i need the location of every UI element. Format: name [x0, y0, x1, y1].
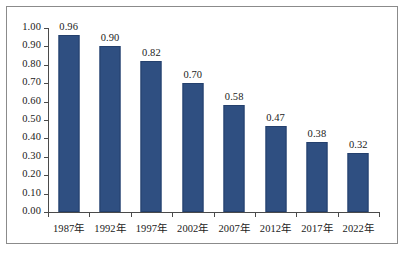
bar-group: 0.32	[338, 28, 379, 212]
bar-value-label: 0.96	[59, 21, 78, 32]
x-axis-category-label: 2022年	[338, 220, 379, 235]
bar-group: 0.70	[172, 28, 213, 212]
y-axis-tick-label: 0.80	[22, 58, 41, 69]
x-axis-category-label: 2012年	[255, 220, 296, 235]
x-axis-tick-mark	[48, 213, 49, 217]
bar-value-label: 0.70	[183, 69, 202, 80]
x-axis-category-label: 1997年	[131, 220, 172, 235]
bar-value-label: 0.58	[225, 91, 244, 102]
bar	[58, 35, 79, 212]
bar-value-label: 0.47	[266, 112, 285, 123]
bar-value-label: 0.38	[308, 128, 327, 139]
bar	[182, 83, 203, 212]
x-axis-tick-mark	[379, 213, 380, 217]
bar	[224, 105, 245, 212]
y-axis-tick-label: 0.70	[22, 76, 41, 87]
bar	[348, 153, 369, 212]
x-axis-category-label: 2002年	[172, 220, 213, 235]
x-axis-tick-mark	[296, 213, 297, 217]
x-axis-tick-mark	[214, 213, 215, 217]
bar	[265, 126, 286, 212]
y-axis-tick-label: 0.90	[22, 39, 41, 50]
x-axis-tick-mark	[172, 213, 173, 217]
y-axis-tick-label: 0.30	[22, 150, 41, 161]
bar	[306, 142, 327, 212]
bar-group: 0.96	[48, 28, 89, 212]
chart-frame: 1.000.900.800.700.600.500.400.300.200.10…	[6, 6, 398, 244]
x-axis-tick-mark	[89, 213, 90, 217]
y-axis-tick-label: 0.20	[22, 168, 41, 179]
x-axis-tick-mark	[255, 213, 256, 217]
bar	[141, 61, 162, 212]
x-axis-category-label: 2017年	[296, 220, 337, 235]
x-axis-category-label: 1987年	[48, 220, 89, 235]
bar-value-label: 0.90	[101, 32, 120, 43]
y-axis-tick-label: 0.60	[22, 95, 41, 106]
bar-group: 0.82	[131, 28, 172, 212]
y-axis-tick-label: 0.40	[22, 131, 41, 142]
plot-area: 0.960.900.820.700.580.470.380.32	[48, 28, 379, 212]
y-axis-tick-label: 0.50	[22, 113, 41, 124]
bar	[100, 46, 121, 212]
bar-group: 0.58	[214, 28, 255, 212]
bar-group: 0.38	[296, 28, 337, 212]
x-axis-tick-mark	[131, 213, 132, 217]
x-axis-tick-mark	[338, 213, 339, 217]
bar-value-label: 0.82	[142, 47, 161, 58]
y-axis-tick-label: 0.10	[22, 187, 41, 198]
x-axis-category-label: 2007年	[214, 220, 255, 235]
y-axis-tick-label: 0.00	[22, 205, 41, 216]
bar-group: 0.47	[255, 28, 296, 212]
bar-value-label: 0.32	[349, 139, 368, 150]
x-axis-category-label: 1992年	[89, 220, 130, 235]
bar-group: 0.90	[89, 28, 130, 212]
y-axis-tick-label: 1.00	[22, 21, 41, 32]
